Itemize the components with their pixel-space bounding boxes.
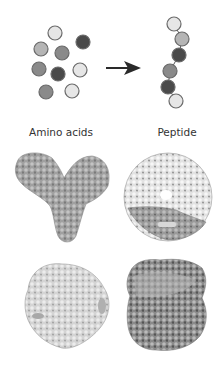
peptide-residue-circle bbox=[169, 94, 183, 108]
diagram-canvas bbox=[0, 0, 224, 370]
amino-acid-circle bbox=[48, 26, 62, 40]
amino-acid-circle bbox=[39, 85, 53, 99]
protein-globular-dark bbox=[127, 259, 206, 350]
amino-acid-circle bbox=[76, 35, 90, 49]
amino-acid-circle bbox=[34, 42, 48, 56]
amino-acid-circle bbox=[65, 84, 79, 98]
reaction-arrow-icon bbox=[106, 61, 141, 75]
peptide-residue-circle bbox=[163, 64, 177, 78]
amino-acid-circle bbox=[55, 46, 69, 60]
peptide-residue-circle bbox=[175, 32, 189, 46]
amino-acid-circle bbox=[73, 63, 87, 77]
peptide-residue-circle bbox=[172, 48, 186, 62]
peptide-residue-circle bbox=[167, 17, 181, 31]
peptide-chain-group bbox=[161, 17, 189, 108]
peptide-residue-circle bbox=[161, 80, 175, 94]
peptide-label: Peptide bbox=[127, 126, 224, 138]
protein-ring bbox=[124, 153, 212, 241]
amino-acids-group bbox=[32, 26, 90, 99]
amino-acid-circle bbox=[32, 62, 46, 76]
amino-acids-label: Amino acids bbox=[11, 126, 111, 138]
protein-y-shaped bbox=[15, 153, 109, 242]
amino-acid-circle bbox=[51, 67, 65, 81]
protein-globular-light bbox=[25, 264, 109, 349]
